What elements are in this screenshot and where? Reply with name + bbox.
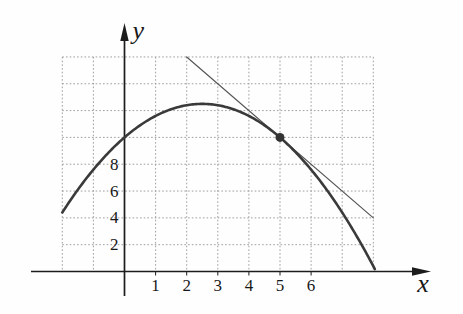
x-axis-label: x	[416, 269, 429, 298]
y-tick-label: 8	[110, 155, 119, 174]
y-tick-label: 4	[110, 208, 119, 227]
y-axis-label: y	[130, 16, 145, 45]
tangent-graph-figure: 1234562468xy	[0, 0, 463, 314]
x-tick-label: 3	[214, 276, 223, 295]
x-tick-label: 1	[151, 276, 160, 295]
x-tick-label: 4	[245, 276, 254, 295]
figure-page: 1234562468xy	[0, 0, 463, 314]
y-tick-label: 2	[110, 235, 119, 254]
x-tick-label: 6	[307, 276, 316, 295]
x-tick-label: 2	[182, 276, 191, 295]
x-tick-label: 5	[276, 276, 285, 295]
y-tick-label: 6	[110, 182, 119, 201]
figure-background	[0, 0, 463, 314]
tangent-point-marker	[276, 133, 285, 142]
